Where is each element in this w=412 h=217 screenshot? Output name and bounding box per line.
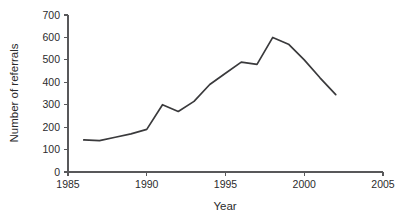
x-tick-label: 2000 (293, 178, 317, 190)
y-tick-label: 100 (42, 143, 60, 155)
y-tick-label: 200 (42, 121, 60, 133)
x-axis-ticks (68, 172, 383, 176)
chart-plot-area: 0100200300400500600700 19851990199520002… (0, 0, 412, 217)
y-tick-label: 0 (54, 166, 60, 178)
y-tick-label: 500 (42, 53, 60, 65)
y-axis-title: Number of referrals (8, 43, 20, 142)
y-tick-label: 400 (42, 76, 60, 88)
x-axis-tick-labels: 19851990199520002005 (56, 178, 395, 190)
y-tick-label: 600 (42, 31, 60, 43)
y-tick-label: 700 (42, 9, 60, 21)
x-tick-label: 2005 (371, 178, 395, 190)
x-tick-label: 1995 (214, 178, 238, 190)
y-axis-ticks (64, 15, 68, 172)
x-tick-label: 1985 (56, 178, 80, 190)
x-tick-label: 1990 (135, 178, 159, 190)
line-chart: 0100200300400500600700 19851990199520002… (0, 0, 412, 217)
y-tick-label: 300 (42, 98, 60, 110)
referrals-line-series (84, 37, 336, 140)
x-axis-title: Year (213, 200, 236, 212)
y-axis-tick-labels: 0100200300400500600700 (42, 9, 60, 178)
